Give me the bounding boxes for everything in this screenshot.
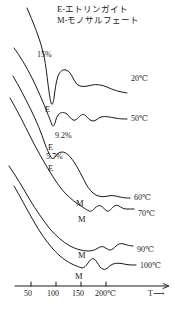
annotation-15-percent: 15% [37, 50, 52, 59]
curve-label-100c: 100℃ [140, 261, 161, 270]
curve-label-20c: 20℃ [131, 74, 148, 83]
peak-marker-e-60c: E [48, 163, 53, 173]
curve-100c [14, 186, 136, 269]
dta-chart-figure: E-エトリンガイト M-モノサルフェート 15% 9.2% 5.7% E E E… [0, 0, 175, 311]
legend: E-エトリンガイト M-モノサルフェート [57, 4, 139, 26]
legend-item-monosulfate: M-モノサルフェート [57, 15, 139, 26]
peak-marker-m-90c: M [78, 250, 86, 260]
peak-marker-e-50c: E [48, 142, 53, 152]
peak-marker-m-60c: M [76, 198, 84, 208]
annotation-9_2-percent: 9.2% [55, 131, 72, 140]
curve-label-70c: 70℃ [138, 209, 155, 218]
curve-70c [10, 98, 134, 211]
legend-item-ettringite: E-エトリンガイト [57, 4, 139, 15]
curve-90c [9, 166, 133, 251]
x-tick-label-50: 50 [24, 289, 32, 298]
peak-marker-m-70c: M [78, 214, 86, 224]
annotation-5_7-percent: 5.7% [46, 152, 63, 161]
x-tick-label-100: 100 [47, 289, 59, 298]
curve-label-60c: 60℃ [134, 193, 151, 202]
curve-label-50c: 50℃ [131, 114, 148, 123]
curve-label-90c: 90℃ [137, 245, 154, 254]
peak-marker-e-20c: E [45, 104, 50, 114]
curve-50c [14, 48, 127, 126]
x-axis-label: T⟶ [148, 289, 164, 298]
x-tick-label-200: 200℃ [95, 289, 116, 298]
x-tick-label-150: 150 [72, 289, 84, 298]
peak-marker-m-100c: M [75, 271, 83, 281]
